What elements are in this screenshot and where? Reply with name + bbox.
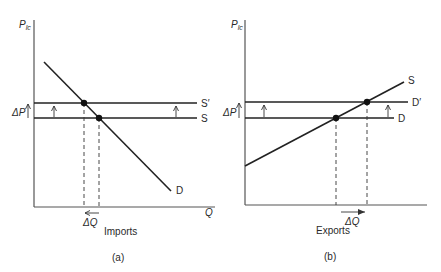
- panel-b-old-equilibrium-point: [333, 115, 339, 121]
- panel-a-new-equilibrium-point: [81, 100, 87, 106]
- panel-a-demand-line: [44, 62, 171, 191]
- panel-b-delta-p-label: ΔP: [222, 107, 237, 118]
- panel-a-y-axis-label: Plc: [19, 19, 31, 31]
- panel-a-market-label: Imports: [104, 226, 137, 237]
- panel-a-x-axis-label: Q: [205, 207, 213, 218]
- panel-b-d-prime-label: D′: [412, 97, 421, 108]
- panel-a-demand-label: D: [176, 185, 183, 196]
- panel-b-supply-label: S: [408, 75, 415, 86]
- panel-a-delta-q-label: ΔQ: [82, 217, 98, 228]
- panel-b-supply-line: [245, 82, 404, 166]
- panel-b-d-label: D: [398, 113, 405, 124]
- panel-a-caption: (a): [112, 252, 124, 263]
- panel-a-old-equilibrium-point: [96, 115, 102, 121]
- panel-a-delta-p-label: ΔP: [11, 107, 26, 118]
- panel-a-s-prime-label: S′: [201, 98, 210, 109]
- panel-b-exports: Plc D′ D S ΔP ΔQ Exports (b): [222, 19, 427, 262]
- panel-a-imports: Plc Q S′ S D ΔP ΔQ Imports (a): [11, 19, 215, 263]
- panel-a-s-label: S: [201, 113, 208, 124]
- panel-b-caption: (b): [324, 251, 336, 262]
- panel-b-y-axis-label: Plc: [231, 19, 243, 31]
- trade-price-diagram: Plc Q S′ S D ΔP ΔQ Imports (a): [0, 0, 441, 272]
- panel-b-market-label: Exports: [316, 225, 350, 236]
- panel-b-new-equilibrium-point: [364, 99, 370, 105]
